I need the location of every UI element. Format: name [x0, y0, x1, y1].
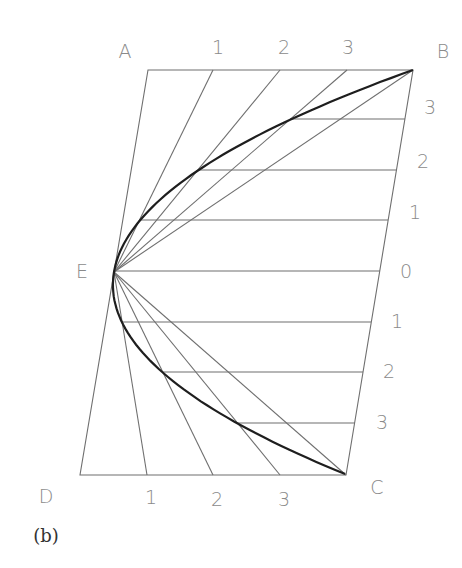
parallelogram-abcd — [80, 70, 413, 475]
ray-top-3 — [114, 70, 347, 272]
top-division-label-1: 1 — [212, 36, 224, 58]
side-division-label-5: 2 — [383, 360, 395, 382]
top-division-label-2: 2 — [278, 36, 290, 58]
ray-bottom-1 — [114, 272, 147, 475]
ray-e-b — [114, 70, 413, 272]
bottom-division-label-1: 1 — [145, 486, 157, 508]
ray-bottom-3 — [114, 272, 280, 475]
side-division-label-2: 1 — [409, 201, 421, 223]
top-division-label-3: 3 — [342, 36, 354, 58]
division-labels: 1231233210123 — [145, 36, 436, 510]
horizontal-ordinate-lines — [114, 119, 405, 423]
side-division-label-1: 2 — [417, 150, 429, 172]
ray-e-c — [114, 272, 346, 475]
parabola-curve — [113, 70, 413, 474]
label-a: A — [119, 40, 132, 62]
parabola-construction-diagram: A B C D E 1231233210123 (b) — [0, 0, 462, 568]
bottom-division-label-3: 3 — [278, 488, 290, 510]
label-b: B — [437, 40, 449, 62]
side-division-label-6: 3 — [376, 411, 388, 433]
figure-caption: (b) — [33, 525, 59, 546]
side-division-label-3: 0 — [400, 260, 412, 282]
point-labels: A B C D E — [39, 40, 450, 507]
construction-rays — [114, 70, 413, 475]
label-d: D — [39, 485, 54, 507]
side-division-label-4: 1 — [391, 310, 403, 332]
bottom-division-label-2: 2 — [211, 488, 223, 510]
label-e: E — [76, 260, 88, 282]
side-division-label-0: 3 — [424, 96, 436, 118]
label-c: C — [370, 476, 383, 498]
